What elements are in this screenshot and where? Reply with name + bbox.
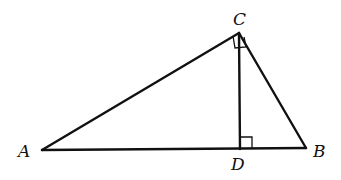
segment-ac (42, 33, 239, 150)
label-d: D (230, 154, 245, 174)
right-angle-marker-d (240, 137, 252, 149)
segment-ab (42, 148, 306, 150)
triangle-diagram: A B C D (0, 0, 341, 180)
label-b: B (312, 141, 326, 161)
segment-cd (239, 33, 240, 149)
label-a: A (16, 141, 30, 161)
label-c: C (233, 9, 246, 29)
segment-bc (239, 33, 306, 148)
